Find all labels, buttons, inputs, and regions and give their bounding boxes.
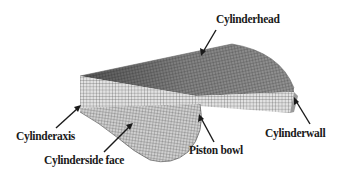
label-cylinder-head: Cylinderhead (216, 14, 280, 26)
label-cylinder-side-face: Cylinderside face (44, 155, 124, 167)
arrow-cylinder-wall (294, 97, 310, 124)
mesh-diagram: Cylinderhead Cylinderaxis Cylinderside f… (0, 0, 340, 178)
label-cylinder-axis: Cylinderaxis (16, 131, 75, 143)
label-piston-bowl: Piston bowl (189, 145, 243, 157)
label-cylinder-wall: Cylinderwall (265, 128, 325, 140)
mesh-illustration (0, 0, 340, 178)
arrow-cylinder-axis (56, 105, 81, 128)
